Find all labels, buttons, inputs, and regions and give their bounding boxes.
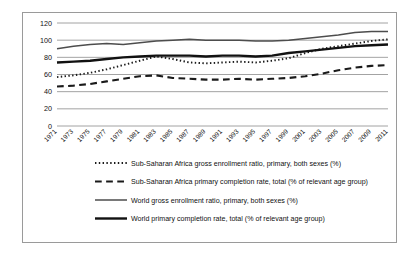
y-tick-label: 100	[40, 36, 52, 45]
x-tick-label: 1985	[158, 128, 174, 144]
legend-label: World primary completion rate, total (% …	[131, 215, 325, 223]
y-tick-label: 80	[44, 53, 52, 62]
x-tick-label: 2011	[374, 128, 389, 143]
x-tick-label: 2003	[307, 128, 323, 144]
x-tick-label: 1983	[142, 128, 158, 144]
x-tick-label: 1987	[175, 128, 191, 144]
y-tick-label: 20	[44, 104, 52, 113]
y-tick-label: 60	[44, 70, 52, 79]
x-tick-label: 2001	[291, 128, 307, 144]
x-axis-tick-labels: 1971197319751977197919811983198519871989…	[42, 128, 389, 144]
y-tick-label: 40	[44, 87, 52, 96]
x-tick-label: 1997	[258, 128, 274, 144]
legend-label: World gross enrollment ratio, primary, b…	[131, 197, 298, 205]
x-tick-label: 1977	[92, 128, 108, 144]
x-tick-label: 1975	[75, 128, 91, 144]
x-tick-label: 1973	[59, 128, 75, 144]
legend-label: Sub-Saharan Africa primary completion ra…	[131, 178, 368, 186]
x-tick-label: 1971	[42, 128, 58, 144]
x-tick-label: 1993	[224, 128, 240, 144]
x-tick-label: 1991	[208, 128, 224, 144]
chart-legend: Sub-Saharan Africa gross enrollment rati…	[95, 160, 368, 224]
chart-figure: 020406080100120 197119731975197719791981…	[22, 12, 397, 243]
line-chart: 020406080100120 197119731975197719791981…	[23, 13, 396, 242]
x-tick-label: 1989	[191, 128, 207, 144]
x-tick-label: 1995	[241, 128, 257, 144]
legend-label: Sub-Saharan Africa gross enrollment rati…	[131, 160, 341, 168]
gridlines	[57, 23, 388, 126]
x-tick-label: 2009	[357, 128, 373, 144]
x-tick-label: 2005	[324, 128, 340, 144]
x-tick-label: 1979	[109, 128, 125, 144]
series-line-1	[57, 65, 388, 86]
x-tick-label: 1999	[274, 128, 290, 144]
y-axis-tick-labels: 020406080100120	[40, 19, 52, 131]
series-line-3	[57, 44, 388, 62]
x-tick-label: 1981	[125, 128, 141, 144]
y-tick-label: 120	[40, 19, 52, 28]
x-tick-label: 2007	[340, 128, 356, 144]
